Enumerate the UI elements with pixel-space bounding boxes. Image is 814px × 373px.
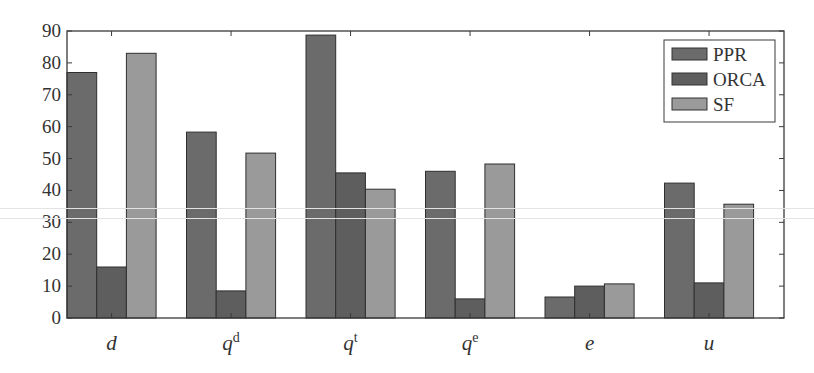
bar-ppr-d <box>67 73 97 319</box>
bars-layer <box>67 35 754 318</box>
bar-sf-d <box>126 53 156 318</box>
bar-ppr-u <box>665 183 695 318</box>
legend-label-ppr: PPR <box>713 44 747 65</box>
bar-orca-u <box>694 283 724 318</box>
bar-sf-u <box>724 204 754 318</box>
legend-swatch-ppr <box>672 48 707 60</box>
bar-orca-qt <box>336 173 366 318</box>
x-category-label: qe <box>462 330 479 355</box>
bar-sf-e <box>604 284 634 318</box>
bar-ppr-qd <box>187 132 217 318</box>
bar-sf-qe <box>485 164 515 318</box>
y-tick-label: 20 <box>42 243 61 264</box>
y-tick-label: 70 <box>42 84 61 105</box>
scan-artifact-line <box>0 218 814 219</box>
legend-swatch-sf <box>672 98 707 110</box>
x-category-label: u <box>704 331 715 355</box>
y-tick-label: 40 <box>42 179 61 200</box>
legend-label-orca: ORCA <box>713 69 766 90</box>
legend-swatch-orca <box>672 73 707 85</box>
x-category-label: d <box>106 331 117 355</box>
legend-label-sf: SF <box>713 94 734 115</box>
y-tick-label: 80 <box>42 52 61 73</box>
legend: PPR ORCA SF <box>664 40 775 122</box>
bar-ppr-qt <box>306 35 336 318</box>
y-tick-label: 90 <box>42 20 61 41</box>
y-tick-label: 50 <box>42 148 61 169</box>
y-tick-label: 0 <box>52 307 62 328</box>
bar-chart: 0102030405060708090 dqdqtqeeu PPR ORCA S… <box>0 0 814 373</box>
bar-ppr-e <box>545 297 575 318</box>
bar-sf-qd <box>246 153 276 318</box>
scan-artifact-line <box>0 208 814 209</box>
x-category-label: e <box>585 331 594 355</box>
bar-ppr-qe <box>426 171 456 318</box>
bar-orca-d <box>97 267 127 318</box>
x-category-label: qd <box>222 330 240 355</box>
x-category-label: qt <box>343 330 358 355</box>
y-tick-label: 60 <box>42 116 61 137</box>
y-tick-label: 10 <box>42 275 61 296</box>
y-tick-label: 30 <box>42 211 61 232</box>
